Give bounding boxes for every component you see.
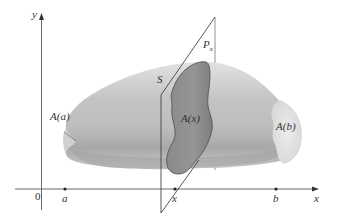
area-b-label: A(b): [275, 120, 296, 133]
tick-a-label: a: [62, 192, 68, 204]
tick-b-label: b: [273, 192, 279, 204]
y-axis-label: y: [31, 8, 37, 20]
tick-b-dot: [274, 187, 277, 190]
tick-a-dot: [63, 187, 66, 190]
area-x-label: A(x): [180, 112, 200, 125]
x-axis-arrow-icon: [312, 187, 319, 192]
x-axis: [15, 187, 319, 192]
tick-x-dot: [173, 187, 176, 190]
tick-x-label: x: [171, 192, 177, 204]
y-axis: [39, 13, 44, 210]
x-axis-label: x: [313, 192, 319, 204]
area-a-label: A(a): [49, 110, 70, 123]
origin-label: 0: [35, 190, 41, 202]
solid-cross-section-diagram: y 0 a x b x S Px A(a) A(x) A(b): [0, 0, 338, 220]
plane-label: Px: [202, 38, 214, 53]
solid-label: S: [157, 73, 163, 85]
y-axis-arrow-icon: [39, 13, 44, 20]
plane-label-sub: x: [209, 45, 214, 53]
